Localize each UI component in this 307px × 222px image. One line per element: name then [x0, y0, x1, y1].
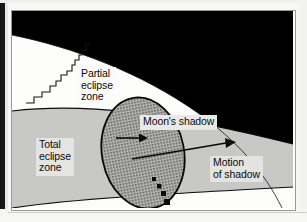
- label-moons-shadow: Moon's shadow: [140, 115, 217, 130]
- scan-hairline-bottom: [8, 212, 307, 213]
- scan-edge-right: [300, 0, 307, 222]
- eclipse-diagram-screenshot: Partial eclipse zone Total eclipse zone …: [0, 0, 307, 222]
- figure-inner: Partial eclipse zone Total eclipse zone …: [12, 11, 293, 208]
- label-partial-eclipse-zone: Partial eclipse zone: [78, 67, 116, 105]
- figure-frame: Partial eclipse zone Total eclipse zone …: [11, 10, 296, 211]
- scan-edge-top: [0, 0, 307, 3]
- label-motion-of-shadow: Motion of shadow: [210, 156, 263, 182]
- scan-edge-left-inner: [5, 0, 8, 222]
- label-total-eclipse-zone: Total eclipse zone: [36, 138, 74, 176]
